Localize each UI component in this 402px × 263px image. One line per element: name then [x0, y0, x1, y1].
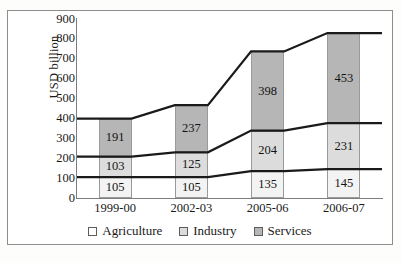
chart-legend: AgricultureIndustryServices [7, 220, 393, 242]
y-tick-label: 200 [38, 152, 75, 165]
legend-item-services[interactable]: Services [254, 223, 312, 239]
connector-lines [77, 19, 382, 198]
y-axis-tick-labels: 9008007006005004003002001000 [38, 12, 75, 204]
x-tick-label: 2005-06 [228, 200, 308, 216]
boundary-line-agriculture [77, 169, 382, 177]
y-tick-label: 100 [38, 172, 75, 185]
x-tick-label: 2002-03 [151, 200, 231, 216]
y-tick-label: 400 [38, 112, 75, 125]
legend-label: Industry [193, 223, 236, 239]
legend-swatch-icon [88, 227, 97, 236]
x-tick-label: 2006-07 [304, 200, 384, 216]
boundary-line-services [77, 33, 382, 119]
plot-area: 145231453135204398105125237105103191 [77, 19, 382, 198]
y-tick-label: 900 [38, 13, 75, 26]
legend-label: Agriculture [102, 223, 162, 239]
legend-item-industry[interactable]: Industry [179, 223, 236, 239]
y-tick-label: 800 [38, 32, 75, 45]
legend-label: Services [268, 223, 312, 239]
x-axis-tick-labels: 1999-002002-032005-062006-07 [77, 200, 382, 218]
y-tick-label: 0 [38, 192, 75, 205]
legend-swatch-icon [254, 227, 263, 236]
x-axis-line [76, 198, 383, 199]
legend-item-agriculture[interactable]: Agriculture [88, 223, 162, 239]
chart-figure: USD billion 9008007006005004003002001000… [0, 0, 402, 263]
y-tick-label: 600 [38, 72, 75, 85]
y-tick-label: 500 [38, 92, 75, 105]
legend-swatch-icon [179, 227, 188, 236]
y-tick-label: 700 [38, 52, 75, 65]
boundary-line-industry [77, 123, 382, 156]
x-tick-label: 1999-00 [75, 200, 155, 216]
y-tick-label: 300 [38, 132, 75, 145]
